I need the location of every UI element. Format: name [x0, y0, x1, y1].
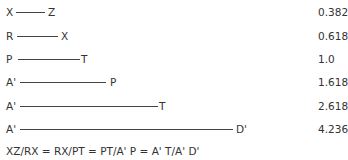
segment-end-label: P	[110, 75, 116, 89]
segment-start-label: A'	[6, 122, 16, 136]
segment-line	[20, 129, 233, 130]
segment-start-label: X	[6, 5, 13, 19]
segment-row-ad: A' D' 4.236	[0, 122, 347, 136]
ratio-value: 1.0	[318, 52, 335, 66]
segment-line	[20, 82, 106, 83]
ratio-value: 2.618	[318, 99, 348, 113]
segment-end-label: Z	[48, 5, 55, 19]
segment-line	[20, 106, 158, 107]
segment-line	[17, 36, 58, 37]
segment-start-label: A'	[6, 75, 16, 89]
ratio-value: 0.618	[318, 29, 348, 43]
segment-line	[16, 12, 45, 13]
ratio-value: 4.236	[318, 122, 348, 136]
segment-line	[18, 59, 80, 60]
segment-end-label: X	[61, 29, 68, 43]
segment-end-label: T	[81, 52, 87, 66]
ratio-value: 0.382	[318, 5, 348, 19]
segment-start-label: A'	[6, 99, 16, 113]
segment-row-xz: X Z 0.382	[0, 5, 347, 19]
segment-row-pt: P T 1.0	[0, 52, 347, 66]
ratio-formula: XZ/RX = RX/PT = PT/A' P = A' T/A' D'	[6, 144, 199, 158]
segment-row-ap: A' P 1.618	[0, 75, 347, 89]
segment-row-rx: R X 0.618	[0, 29, 347, 43]
segment-start-label: P	[6, 52, 12, 66]
ratio-value: 1.618	[318, 75, 348, 89]
segment-row-at: A' T 2.618	[0, 99, 347, 113]
segment-end-label: D'	[236, 122, 247, 136]
segment-start-label: R	[6, 29, 13, 43]
segment-end-label: T	[159, 99, 165, 113]
